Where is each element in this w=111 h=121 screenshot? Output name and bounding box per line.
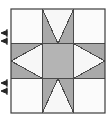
corner-square-top-right: [74, 9, 105, 44]
corner-square-top-left: [11, 9, 42, 44]
center-square: [42, 44, 73, 79]
seam-mark-upper-arrow-1: [1, 31, 7, 36]
diagram-canvas: Sawtooth Star quilt block Sawtooth Star …: [0, 0, 111, 121]
corner-square-bottom-right: [74, 78, 105, 113]
seam-mark-upper-arrow-2: [1, 39, 7, 44]
quilt-block-diagram: [0, 0, 111, 121]
corner-square-bottom-left: [11, 78, 42, 113]
seam-mark-lower-arrow-2: [1, 89, 7, 94]
left-edge-seam-marks: [1, 29, 7, 95]
seam-mark-upper: [1, 29, 7, 45]
seam-mark-lower-arrow-1: [1, 81, 7, 86]
seam-mark-lower: [1, 79, 7, 95]
